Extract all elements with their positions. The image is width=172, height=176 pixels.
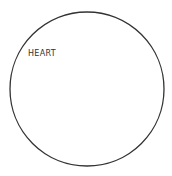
diagram-canvas [0, 0, 172, 176]
heart-label: HEART [28, 49, 56, 59]
circle-shape [10, 12, 164, 166]
